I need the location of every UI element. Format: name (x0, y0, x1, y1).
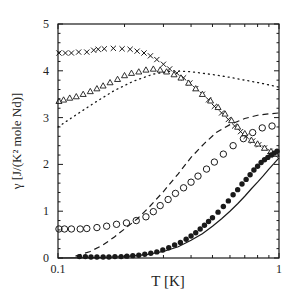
series-layer (56, 46, 280, 260)
chart: 0123450.11 T [K] γ [J/(K² mole Nd)] (0, 0, 297, 299)
series-filled-circles (77, 149, 280, 260)
series-open-circles (56, 123, 275, 232)
y-tick-label: 4 (43, 64, 49, 78)
x-axis-label: T [K] (151, 273, 184, 289)
series-crosses (56, 46, 277, 158)
x-tick-label: 0.1 (51, 262, 66, 276)
y-tick-label: 1 (43, 204, 49, 218)
y-tick-label: 0 (43, 251, 49, 265)
y-tick-label: 2 (43, 157, 49, 171)
series-triangles (56, 66, 279, 156)
y-tick-label: 5 (43, 17, 49, 31)
series-solid-curve (58, 158, 279, 258)
x-tick-label: 1 (276, 262, 282, 276)
y-axis-label: γ [J/(K² mole Nd)] (9, 93, 24, 191)
axis-tick-labels: 0123450.11 (43, 17, 282, 276)
y-tick-label: 3 (43, 111, 49, 125)
